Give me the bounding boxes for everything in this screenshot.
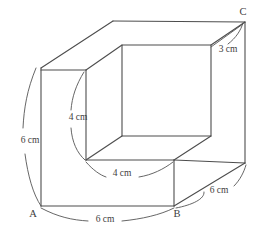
leader-bottom-width-left: [41, 208, 88, 221]
leader-bottom-width-right: [122, 208, 174, 221]
edge-top-left-slant: [41, 21, 113, 68]
edge-notch-receding-top-right: [211, 22, 245, 45]
dimension-label-bottom-front-width: 6 cm: [96, 214, 115, 224]
dimension-label-notch-depth: 4 cm: [113, 168, 132, 178]
dimension-label-top-back-offset: 3 cm: [219, 44, 238, 54]
vertex-label-a: A: [29, 208, 37, 219]
edge-notch-receding-top-left: [86, 45, 122, 70]
edge-notch-floor-receding: [174, 160, 245, 163]
leader-notch-height-upper: [71, 72, 84, 110]
edge-top-back: [113, 21, 245, 22]
edge-notch-receding-bottom-left: [86, 136, 122, 160]
leader-notch-depth-left: [86, 162, 106, 177]
dimension-label-left-height: 6 cm: [21, 135, 40, 145]
leader-notch-depth-right: [139, 162, 173, 177]
edge-notch-receding-bottom-right: [174, 136, 211, 160]
leader-notch-height-lower: [71, 128, 85, 160]
dimension-label-notch-height: 4 cm: [69, 112, 88, 122]
edge-notch-back-face: [122, 45, 211, 136]
vertex-label-c: C: [239, 6, 246, 17]
leader-right-depth-lower: [176, 192, 204, 208]
geometry-figure: 6 cm 6 cm 6 cm 4 cm 4 cm 3 cm A B C: [0, 0, 259, 235]
dimension-labels: 6 cm 6 cm 6 cm 4 cm 4 cm 3 cm: [21, 44, 238, 224]
leader-left-height-upper: [23, 68, 36, 128]
leader-left-height-lower: [25, 154, 41, 206]
geometry-diagram: 6 cm 6 cm 6 cm 4 cm 4 cm 3 cm A B C: [0, 0, 259, 235]
dimension-label-bottom-right-depth: 6 cm: [210, 185, 229, 195]
vertex-label-b: B: [173, 208, 180, 219]
